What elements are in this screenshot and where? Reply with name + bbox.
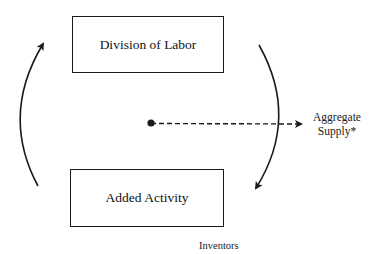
division-of-labor-box: Division of Labor: [72, 16, 224, 73]
division-of-labor-label: Division of Labor: [100, 37, 197, 53]
aggregate-line: Aggregate: [306, 110, 368, 124]
added-activity-label: Added Activity: [106, 190, 189, 206]
left-cycle-arrow: [20, 44, 43, 186]
added-activity-box: Added Activity: [70, 169, 224, 227]
supply-line: Supply*: [306, 124, 368, 138]
inventors-label: Inventors: [199, 240, 239, 251]
right-cycle-arrow: [256, 45, 279, 188]
aggregate-supply-label: Aggregate Supply*: [306, 110, 368, 138]
